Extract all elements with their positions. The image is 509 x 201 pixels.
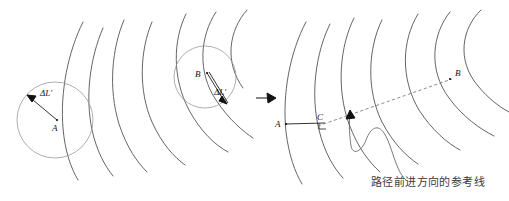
reference-line-caption: 路径前进方向的参考线 (371, 175, 485, 189)
delta-vector-a (27, 95, 57, 120)
wavefront-curve (113, 20, 147, 172)
rightwards-arrow-icon (256, 93, 276, 103)
point-label-b-left: B (195, 69, 201, 79)
wavefront-curve (405, 14, 460, 150)
figure-root: A ΔL′ B ΔL′ (0, 0, 509, 201)
delta-label-b-left: ΔL′ (213, 87, 227, 97)
wavefront-curve (176, 14, 228, 152)
point-label-a-right: A (274, 119, 281, 129)
wavefront-curve (315, 24, 343, 178)
point-dot-a-left (56, 119, 58, 121)
delta-label-a-left: ΔL′ (39, 88, 53, 98)
caption-leader-line (351, 128, 406, 180)
wavefront-curve (285, 22, 306, 184)
wavefront-diagram: A ΔL′ B ΔL′ (0, 0, 509, 201)
point-label-a-left: A (51, 123, 58, 133)
point-dot-a-right (285, 123, 287, 125)
point-dot-b-right (449, 78, 451, 80)
wavefront-curve (435, 12, 494, 136)
right-panel-group: A C B 路径前进方向的参考线 (274, 10, 509, 189)
wavefront-curve (464, 10, 509, 112)
point-dot-b-left (206, 72, 208, 74)
point-label-b-right: B (455, 68, 461, 78)
right-wavefront-curves (285, 10, 509, 184)
point-label-c: C (317, 112, 324, 122)
radius-circle-a (17, 82, 93, 158)
wavefront-curve (89, 28, 113, 176)
left-panel-group: A ΔL′ B ΔL′ (17, 10, 253, 180)
wavefront-curve (231, 10, 247, 88)
reference-line-dashed (318, 79, 452, 126)
